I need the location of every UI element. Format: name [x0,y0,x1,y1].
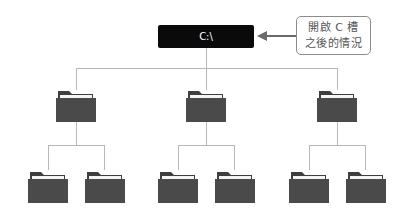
level2-bus-left [48,145,105,146]
level2-bus-middle [178,145,235,146]
level1-drop-middle [206,68,207,90]
folder-icon[interactable] [85,170,125,203]
callout-line-2: 之後的情況 [297,36,370,52]
level2-drop [178,145,179,170]
folder-icon[interactable] [317,89,357,122]
folder-icon[interactable] [215,170,255,203]
folder-icon[interactable] [346,170,386,203]
callout-arrow-line [266,35,296,37]
level2-drop [309,145,310,170]
level1-drop-right [337,68,338,90]
level2-stem-right [337,122,338,145]
folder-icon[interactable] [158,170,198,203]
root-connector [206,48,207,68]
folder-icon[interactable] [289,170,329,203]
level2-drop [48,145,49,170]
level2-drop [234,145,235,170]
arrow-left-icon [257,31,267,41]
callout-line-1: 開啟 C 槽 [297,20,370,36]
folder-icon[interactable] [56,89,96,122]
level2-drop [365,145,366,170]
level1-bus [76,68,338,69]
root-drive-node: C:\ [158,25,254,48]
level1-drop-left [76,68,77,90]
root-drive-label: C:\ [199,31,213,42]
folder-icon[interactable] [28,170,68,203]
level2-drop [104,145,105,170]
level2-stem-left [76,122,77,145]
callout-note: 開啟 C 槽 之後的情況 [296,16,371,55]
level2-bus-right [309,145,366,146]
folder-icon[interactable] [186,89,226,122]
level2-stem-middle [206,122,207,145]
